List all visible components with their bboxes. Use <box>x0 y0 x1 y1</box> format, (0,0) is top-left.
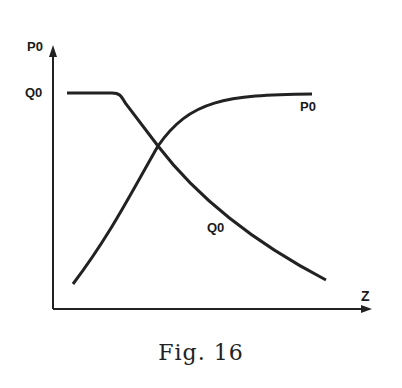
figure-caption: Fig. 16 <box>0 340 402 365</box>
y-axis-label: P0 <box>27 39 43 54</box>
y-tick-q0-label: Q0 <box>25 85 42 100</box>
series-p0-line <box>73 94 312 284</box>
figure: P0 Q0 P0 Q0 Z Fig. 16 <box>0 0 402 388</box>
x-axis-arrow-icon <box>361 305 372 313</box>
curve-label-p0: P0 <box>300 99 316 114</box>
chart-canvas <box>0 0 402 388</box>
curve-label-q0: Q0 <box>207 220 224 235</box>
y-axis-arrow-icon <box>49 45 57 57</box>
series-q0-line <box>67 93 326 280</box>
x-axis-label: Z <box>361 288 370 304</box>
